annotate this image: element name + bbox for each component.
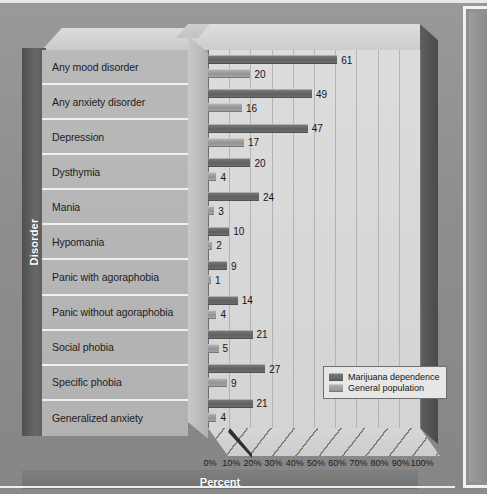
category-label-row: Any anxiety disorder: [42, 85, 188, 120]
category-label: Depression: [52, 131, 104, 143]
bar: 17: [208, 138, 244, 147]
chart-legend: Marijuana dependenceGeneral population: [323, 366, 447, 399]
plot-top-face: [188, 24, 420, 50]
category-label: Any mood disorder: [52, 61, 138, 73]
bar-value-label: 14: [242, 295, 253, 306]
category-label: Social phobia: [52, 341, 114, 353]
bar-group: 243: [208, 187, 420, 221]
bar: 16: [208, 103, 242, 112]
x-tick-label: 100%: [410, 458, 433, 468]
x-tick-label: 0%: [203, 458, 216, 468]
category-label-row: Panic with agoraphobia: [42, 260, 188, 295]
category-label-row: Hypomania: [42, 225, 188, 260]
category-label: Any anxiety disorder: [52, 96, 145, 108]
bar-value-label: 20: [254, 157, 265, 168]
bar-chart-figure: Disorder Any mood disorderAny anxiety di…: [18, 14, 438, 466]
bar: 20: [208, 158, 250, 167]
category-label-row: Any mood disorder: [42, 50, 188, 85]
category-label: Generalized anxiety: [52, 412, 143, 424]
bar-value-label: 3: [218, 205, 224, 216]
bar-value-label: 27: [269, 363, 280, 374]
category-label-list: Any mood disorderAny anxiety disorderDep…: [42, 50, 188, 436]
category-label-row: Mania: [42, 190, 188, 225]
category-label: Hypomania: [52, 236, 104, 248]
bar: 49: [208, 89, 312, 98]
bar: 2: [208, 241, 212, 250]
category-label-row: Dysthymia: [42, 155, 188, 190]
page-canvas: Disorder Any mood disorderAny anxiety di…: [0, 0, 487, 494]
x-tick-label: 30%: [265, 458, 283, 468]
bar: 5: [208, 344, 219, 353]
bar: 24: [208, 192, 259, 201]
bar: 1: [208, 275, 211, 284]
bar-value-label: 4: [220, 171, 226, 182]
bar: 14: [208, 296, 238, 305]
bar-value-label: 9: [231, 377, 237, 388]
legend-label: Marijuana dependence: [348, 372, 440, 382]
adjacent-page-panel: [463, 6, 487, 488]
category-label-row: Depression: [42, 120, 188, 155]
page-bottom-edge: [0, 486, 455, 488]
category-label: Mania: [52, 201, 80, 213]
bar: 21: [208, 399, 253, 408]
bar-group: 91: [208, 256, 420, 290]
bar-group: 4717: [208, 119, 420, 153]
y-axis-title: Disorder: [28, 219, 40, 266]
x-tick-label: 20%: [243, 458, 261, 468]
page-bottom-shadow: [0, 489, 487, 494]
bar-group: 144: [208, 291, 420, 325]
bar-group: 204: [208, 153, 420, 187]
bar-value-label: 1: [215, 274, 221, 285]
category-label-row: Social phobia: [42, 331, 188, 366]
bar-value-label: 2: [216, 240, 222, 251]
bar-value-label: 17: [248, 137, 259, 148]
bar-value-label: 16: [246, 102, 257, 113]
category-label: Panic with agoraphobia: [52, 271, 159, 283]
page-top-edge: [0, 0, 487, 3]
bar-value-label: 5: [223, 343, 229, 354]
category-label-row: Generalized anxiety: [42, 401, 188, 436]
floor-hatch-pattern: [208, 428, 440, 456]
bar-value-label: 9: [231, 260, 237, 271]
bar-value-label: 4: [220, 412, 226, 423]
bar: 10: [208, 227, 229, 236]
bar: 9: [208, 261, 227, 270]
x-tick-label: 60%: [328, 458, 346, 468]
legend-item: General population: [329, 383, 440, 393]
bar: 47: [208, 124, 308, 133]
x-tick-label: 50%: [307, 458, 325, 468]
bar-value-label: 47: [312, 123, 323, 134]
bar: 9: [208, 378, 227, 387]
category-label-panel: Any mood disorderAny anxiety disorderDep…: [42, 50, 188, 436]
bar-value-label: 20: [254, 68, 265, 79]
bar-group: 6120: [208, 50, 420, 84]
x-tick-label: 70%: [349, 458, 367, 468]
bar-value-label: 61: [341, 54, 352, 65]
x-tick-label: 10%: [222, 458, 240, 468]
category-label: Panic without agoraphobia: [52, 306, 173, 318]
bar-value-label: 21: [257, 398, 268, 409]
label-panel-right-face: [188, 36, 208, 439]
bar: 20: [208, 69, 250, 78]
category-label-row: Panic without agoraphobia: [42, 296, 188, 331]
adjacent-page-surface: [469, 12, 487, 482]
bar: 4: [208, 413, 216, 422]
light-gray-swatch: [329, 384, 343, 392]
perspective-floor: [208, 428, 440, 456]
bar: 61: [208, 55, 337, 64]
bar-value-label: 49: [316, 88, 327, 99]
category-label: Specific phobia: [52, 376, 122, 388]
x-tick-label: 40%: [286, 458, 304, 468]
bar-value-label: 21: [257, 329, 268, 340]
legend-label: General population: [348, 383, 424, 393]
x-tick-label: 80%: [371, 458, 389, 468]
bar-value-label: 4: [220, 309, 226, 320]
bar: 27: [208, 364, 265, 373]
bar-value-label: 10: [233, 226, 244, 237]
bar: 3: [208, 206, 214, 215]
category-label-row: Specific phobia: [42, 366, 188, 401]
bar-group: 4916: [208, 84, 420, 118]
legend-item: Marijuana dependence: [329, 372, 440, 382]
category-label: Dysthymia: [52, 166, 100, 178]
bar-value-label: 24: [263, 191, 274, 202]
